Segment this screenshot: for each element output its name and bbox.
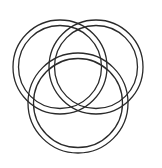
drawing-canvas: Three Interlocking Rings: [0, 0, 162, 168]
interlocking-rings-figure: Three Interlocking Rings: [0, 0, 162, 168]
